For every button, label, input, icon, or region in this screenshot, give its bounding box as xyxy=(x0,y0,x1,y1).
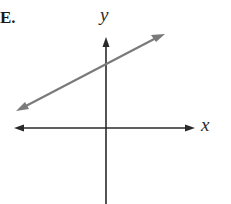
graphed-line xyxy=(16,34,165,111)
x-axis-right-arrow-icon xyxy=(185,125,195,132)
graph-canvas xyxy=(0,0,231,204)
line-right-arrow-icon xyxy=(151,34,165,42)
line-left-arrow-icon xyxy=(16,102,29,111)
y-axis-up-arrow-icon xyxy=(103,37,110,47)
graph-figure: E. y x xyxy=(0,0,231,204)
x-axis-left-arrow-icon xyxy=(14,125,24,132)
x-axis xyxy=(14,125,195,132)
